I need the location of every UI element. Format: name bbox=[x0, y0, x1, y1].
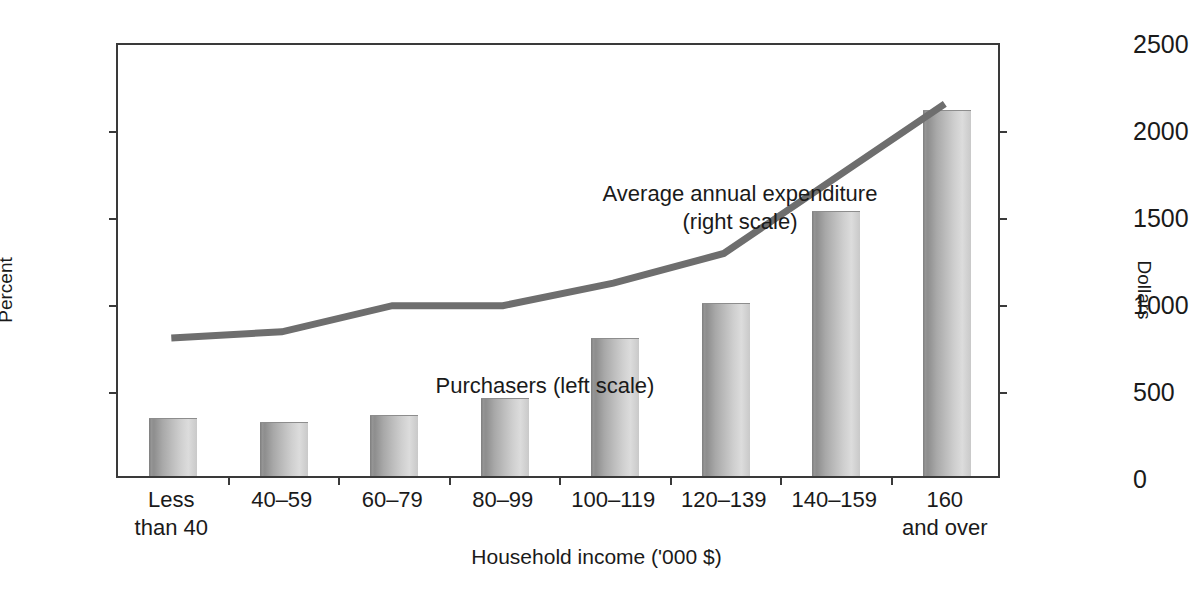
x-axis-tick bbox=[670, 476, 672, 485]
y-axis-tick-right bbox=[998, 218, 1007, 220]
bar bbox=[591, 338, 639, 476]
bar bbox=[481, 398, 529, 476]
y-axis-tick-right bbox=[998, 392, 1007, 394]
x-axis-tick bbox=[891, 476, 893, 485]
bar bbox=[923, 110, 971, 476]
y-axis-tick-label-right: 500 bbox=[1133, 380, 1193, 405]
x-axis-category-label: Less than 40 bbox=[116, 486, 227, 542]
y-axis-tick-left bbox=[109, 218, 118, 220]
x-axis-tick bbox=[338, 476, 340, 485]
bar bbox=[370, 415, 418, 476]
plot-area: 0102030405005001000150020002500 bbox=[116, 43, 1000, 478]
y-axis-tick-left bbox=[109, 131, 118, 133]
x-axis-category-label: 40–59 bbox=[227, 486, 338, 514]
y-axis-tick-label-right: 2500 bbox=[1133, 32, 1193, 57]
x-axis-category-label: 120–139 bbox=[669, 486, 780, 514]
chart-canvas: Percent Dollars Household income ('000 $… bbox=[0, 0, 1193, 606]
bar bbox=[260, 422, 308, 476]
x-axis-tick bbox=[780, 476, 782, 485]
y-axis-tick-right bbox=[998, 305, 1007, 307]
x-axis-category-label: 140–159 bbox=[779, 486, 890, 514]
x-axis-tick bbox=[228, 476, 230, 485]
x-axis-category-label: 60–79 bbox=[337, 486, 448, 514]
bar bbox=[812, 211, 860, 476]
y-axis-title-right: Dollars bbox=[1133, 230, 1155, 350]
x-axis-category-label: 80–99 bbox=[448, 486, 559, 514]
y-axis-tick-label-right: 0 bbox=[1133, 467, 1193, 492]
x-axis-tick bbox=[449, 476, 451, 485]
x-axis-title: Household income ('000 $) bbox=[0, 545, 1193, 569]
y-axis-tick-label-right: 2000 bbox=[1133, 119, 1193, 144]
x-axis-tick bbox=[559, 476, 561, 485]
bar bbox=[149, 418, 197, 476]
y-axis-title-left: Percent bbox=[0, 230, 17, 350]
y-axis-tick-left bbox=[109, 392, 118, 394]
annotation-bar-series: Purchasers (left scale) bbox=[390, 372, 700, 400]
y-axis-tick-label-right: 1000 bbox=[1133, 293, 1193, 318]
y-axis-tick-left bbox=[109, 305, 118, 307]
x-axis-category-label: 160 and over bbox=[890, 486, 1001, 542]
y-axis-tick-right bbox=[998, 131, 1007, 133]
bar bbox=[702, 303, 750, 476]
y-axis-tick-label-right: 1500 bbox=[1133, 206, 1193, 231]
x-axis-category-label: 100–119 bbox=[558, 486, 669, 514]
annotation-line-series: Average annual expenditure (right scale) bbox=[560, 180, 920, 236]
